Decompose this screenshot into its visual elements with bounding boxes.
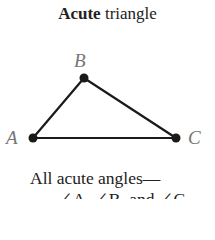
caption-line-1: All acute angles— <box>30 168 160 189</box>
vertex-c-dot <box>172 134 181 143</box>
vertex-label-b: B <box>74 50 86 72</box>
vertex-a-dot <box>29 134 38 143</box>
triangle-outline <box>33 78 176 138</box>
vertex-b-dot <box>80 74 89 83</box>
caption-line-2: ∠A, ∠B, and ∠C <box>58 189 185 199</box>
vertex-label-c: C <box>188 127 201 149</box>
vertex-label-a: A <box>6 127 18 149</box>
